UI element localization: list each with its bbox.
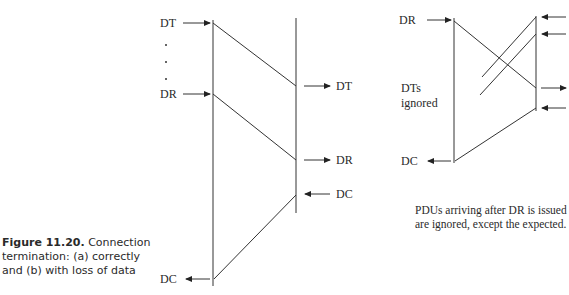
label-a-dc-left: DC — [160, 272, 177, 286]
pdu-a-dr — [213, 94, 296, 160]
label-b-ignored: ignored — [401, 96, 438, 110]
note-line-2: are ignored, except the expected. — [415, 217, 566, 231]
label-b-dts: DTs — [401, 81, 421, 95]
pdu-b-dt1 — [482, 17, 536, 77]
note-line-1: PDUs arriving after DR is issued — [415, 203, 567, 217]
label-a-dc-right: DC — [336, 187, 353, 201]
pdu-b-dt2 — [480, 34, 536, 95]
pdu-b-dc — [455, 108, 536, 161]
label-a-dt-left: DT — [160, 16, 176, 30]
figure-caption: Figure 11.20. Connection termination: (a… — [2, 236, 152, 278]
caption-label: Figure 11.20. — [2, 236, 85, 249]
ellipsis-dot — [165, 61, 167, 63]
label-b-dr: DR — [399, 13, 416, 27]
pdu-a-dc — [214, 195, 296, 279]
label-a-dr-left: DR — [160, 87, 177, 101]
pdu-a-dt — [213, 23, 296, 86]
ellipsis-dot — [165, 44, 167, 46]
label-b-dc: DC — [401, 154, 418, 168]
ellipsis-dot — [165, 78, 167, 80]
label-a-dt-right: DT — [336, 79, 352, 93]
label-a-dr-right: DR — [336, 153, 353, 167]
